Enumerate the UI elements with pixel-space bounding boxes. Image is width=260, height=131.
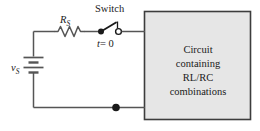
switch-left-terminal-node xyxy=(98,29,104,35)
source-label-subscript: S xyxy=(16,67,20,76)
resistor-label-subscript: S xyxy=(66,19,70,28)
circuit-diagram-figure: Switch RS t= 0 vS Circuit containing RL/… xyxy=(0,0,260,131)
source-label: vS xyxy=(11,62,19,76)
circuit-block-caption-line-4: combinations xyxy=(146,85,250,99)
circuit-block-caption-line-3: RL/RC xyxy=(146,71,250,85)
bottom-junction-node xyxy=(112,104,120,112)
switch-time-label: t= 0 xyxy=(97,38,114,50)
switch-right-terminal-node xyxy=(116,29,122,35)
circuit-block-caption-line-1: Circuit xyxy=(146,43,250,57)
switch-label: Switch xyxy=(95,3,124,15)
circuit-block-caption-line-2: containing xyxy=(146,57,250,71)
switch-time-value: = 0 xyxy=(100,38,114,49)
circuit-block-caption: Circuit containing RL/RC combinations xyxy=(146,43,250,99)
resistor-label: RS xyxy=(60,14,70,28)
